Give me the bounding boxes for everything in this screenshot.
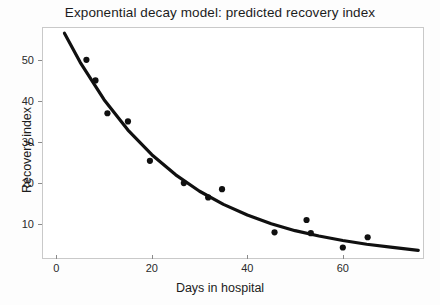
x-axis-title: Days in hospital xyxy=(0,281,440,295)
x-axis-ticks: 0204060 xyxy=(0,0,440,305)
x-tick-label: 40 xyxy=(241,262,253,274)
x-tick-mark xyxy=(247,255,248,259)
y-axis-title: Recovery index xyxy=(20,80,34,220)
x-tick-label: 0 xyxy=(53,262,59,274)
x-tick-mark xyxy=(56,255,57,259)
x-tick-label: 20 xyxy=(146,262,158,274)
x-tick-label: 60 xyxy=(337,262,349,274)
x-tick-mark xyxy=(343,255,344,259)
chart-figure: Exponential decay model: predicted recov… xyxy=(0,0,440,305)
x-tick-mark xyxy=(152,255,153,259)
